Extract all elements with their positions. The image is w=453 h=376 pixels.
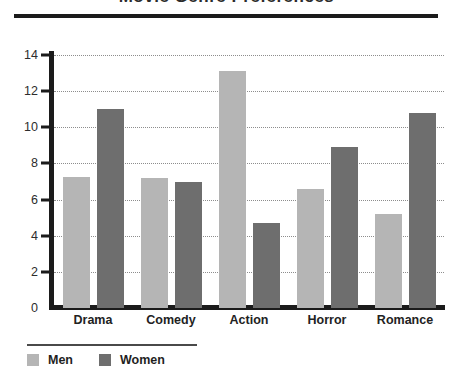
- plot-wrapper: 02468101214: [0, 40, 453, 325]
- bar-group-comedy: [132, 55, 210, 308]
- bar-group-drama: [54, 55, 132, 308]
- x-axis-category-label-horror: Horror: [288, 313, 366, 327]
- y-axis-tick-mark: [41, 198, 49, 201]
- y-axis-tick-label: 10: [24, 120, 38, 134]
- y-axis-tick-label: 8: [31, 156, 38, 170]
- y-axis-tick-label: 6: [31, 193, 38, 207]
- chart-legend: MenWomen: [27, 353, 165, 367]
- legend-label-men: Men: [48, 353, 73, 367]
- y-axis-tick-mark: [41, 270, 49, 273]
- legend-label-women: Women: [120, 353, 165, 367]
- chart-title-clipped: Movie Genre Preferences: [0, 0, 453, 7]
- legend-swatch-men: [27, 354, 39, 366]
- bar-romance-men[interactable]: [375, 214, 402, 308]
- plot-area: [54, 55, 444, 308]
- y-axis-tick-mark: [41, 126, 49, 129]
- chart-title: Movie Genre Preferences: [0, 0, 453, 7]
- bar-drama-men[interactable]: [63, 177, 90, 308]
- bar-comedy-women[interactable]: [175, 182, 202, 308]
- bar-group-horror: [288, 55, 366, 308]
- y-axis-tick-mark: [41, 234, 49, 237]
- y-axis-tick-mark: [41, 90, 49, 93]
- bar-groups: [54, 55, 444, 308]
- y-axis-tick-label: 12: [24, 84, 38, 98]
- y-axis-tick-label: 14: [24, 48, 38, 62]
- bar-group-action: [210, 55, 288, 308]
- bar-horror-men[interactable]: [297, 189, 324, 308]
- bar-romance-women[interactable]: [409, 113, 436, 308]
- x-axis-category-label-drama: Drama: [54, 313, 132, 327]
- bar-horror-women[interactable]: [331, 147, 358, 308]
- bar-drama-women[interactable]: [97, 109, 124, 308]
- chart-page: Movie Genre Preferences 02468101214 Dram…: [0, 0, 453, 376]
- x-axis-category-labels: DramaComedyActionHorrorRomance: [54, 313, 444, 327]
- x-axis-category-label-action: Action: [210, 313, 288, 327]
- legend-item-men[interactable]: Men: [27, 353, 73, 367]
- legend-item-women[interactable]: Women: [99, 353, 165, 367]
- y-axis-labels: 02468101214: [0, 40, 52, 325]
- y-axis-tick-label: 4: [31, 229, 38, 243]
- y-axis-tick-label: 0: [31, 301, 38, 315]
- y-axis-tick-mark: [41, 162, 49, 165]
- y-axis-tick-mark: [41, 54, 49, 57]
- y-axis-tick-label: 2: [31, 265, 38, 279]
- x-axis-category-label-romance: Romance: [366, 313, 444, 327]
- title-divider-rule: [14, 14, 438, 18]
- legend-swatch-women: [99, 354, 111, 366]
- x-axis-category-label-comedy: Comedy: [132, 313, 210, 327]
- bar-action-men[interactable]: [219, 71, 246, 308]
- bar-group-romance: [366, 55, 444, 308]
- legend-divider-rule: [27, 344, 197, 346]
- bar-action-women[interactable]: [253, 223, 280, 308]
- bar-comedy-men[interactable]: [141, 178, 168, 308]
